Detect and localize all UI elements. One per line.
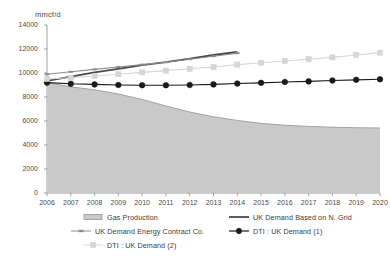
data-point-marker	[187, 82, 193, 88]
data-point-marker	[116, 72, 121, 77]
legend-swatch-line-dash-icon	[70, 226, 92, 236]
data-point-marker	[92, 82, 98, 88]
legend-label: DTI : UK Demand (1)	[253, 227, 322, 236]
data-point-marker	[377, 76, 383, 82]
legend-label: Gas Production	[107, 213, 158, 222]
data-point-marker	[68, 75, 73, 80]
data-point-marker	[306, 79, 312, 85]
data-point-marker	[353, 77, 359, 83]
data-point-marker	[44, 76, 49, 81]
data-point-marker	[163, 82, 169, 88]
legend-item[interactable]: DTI : UK Demand (1)	[228, 226, 322, 236]
data-point-marker	[68, 81, 74, 87]
data-point-marker	[235, 62, 240, 67]
series-gas-production	[47, 83, 380, 193]
data-point-marker	[139, 82, 145, 88]
legend-swatch-area-swatch-icon	[82, 212, 104, 222]
legend-label: UK Demand Based on N. Grid	[253, 213, 352, 222]
legend-item[interactable]: UK Demand Energy Contract Co.	[70, 226, 204, 236]
legend-label: UK Demand Energy Contract Co.	[95, 227, 204, 236]
data-point-marker	[92, 73, 97, 78]
data-point-marker	[282, 79, 288, 85]
chart-legend: Gas ProductionUK Demand Based on N. Grid…	[0, 212, 390, 262]
data-point-marker	[354, 52, 359, 57]
data-point-marker	[282, 58, 287, 63]
legend-item[interactable]: Gas Production	[82, 212, 158, 222]
legend-label: DTI : UK Demand (2)	[107, 241, 176, 250]
data-point-marker	[306, 57, 311, 62]
legend-item[interactable]: UK Demand Based on N. Grid	[228, 212, 352, 222]
data-point-marker	[258, 80, 264, 86]
legend-swatch-line-icon	[228, 212, 250, 222]
data-point-marker	[377, 50, 382, 55]
data-point-marker	[234, 81, 240, 87]
chart-container: mmcf/d 02000400060008000100001200014000 …	[0, 0, 390, 263]
data-point-marker	[330, 78, 336, 84]
legend-swatch-line-square-icon	[82, 240, 104, 250]
data-point-marker	[211, 82, 217, 88]
legend-item[interactable]: DTI : UK Demand (2)	[82, 240, 176, 250]
data-point-marker	[116, 82, 122, 88]
data-point-marker	[258, 60, 263, 65]
data-point-marker	[140, 70, 145, 75]
data-point-marker	[211, 64, 216, 69]
data-point-marker	[187, 66, 192, 71]
data-point-marker	[163, 68, 168, 73]
area-fill	[47, 83, 380, 193]
legend-swatch-line-circle-icon	[228, 226, 250, 236]
data-point-marker	[330, 55, 335, 60]
